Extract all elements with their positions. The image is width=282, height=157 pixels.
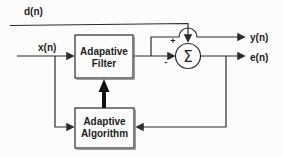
desired-signal-label: d(n): [24, 6, 43, 17]
update-arrow-head-icon: [99, 79, 110, 92]
adaptive-filter-label-line2: Filter: [92, 58, 117, 69]
input-signal-label: x(n): [38, 42, 56, 53]
output-signal-label: y(n): [250, 32, 268, 43]
adaptive-algorithm-label-line1: Adaptive: [83, 116, 126, 127]
adaptive-filter-label-line1: Adapative: [80, 46, 128, 57]
adaptive-filter-diagram: Adapative Filter Adaptive Algorithm Σ + …: [0, 0, 282, 157]
adaptive-algorithm-label-line2: Algorithm: [81, 128, 128, 139]
input-branch-line: [55, 56, 73, 127]
update-arrow-shaft: [102, 90, 106, 108]
sigma-symbol: Σ: [183, 48, 192, 66]
plus-sign: +: [170, 36, 175, 46]
error-signal-label: e(n): [250, 52, 268, 63]
minus-sign: -: [165, 57, 168, 67]
diagram-canvas: Adapative Filter Adaptive Algorithm Σ + …: [0, 0, 282, 157]
